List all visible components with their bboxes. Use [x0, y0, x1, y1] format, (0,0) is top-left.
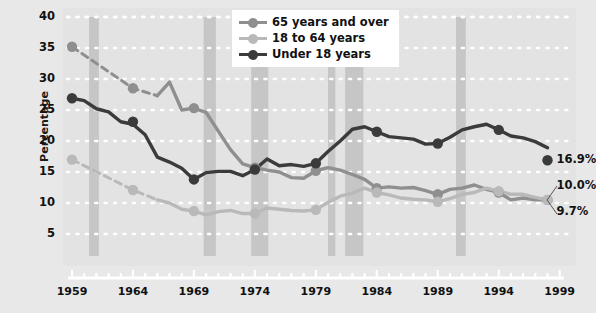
y-tick-label: 20 [27, 133, 55, 147]
end-label-under18: 16.9% [556, 152, 596, 166]
data-point-marker [494, 125, 504, 135]
x-tick-label: 1979 [294, 285, 338, 298]
legend-item-18to64[interactable]: 18 to 64 years [239, 30, 389, 46]
legend-label-over65: 65 years and over [272, 15, 389, 29]
x-tick-label: 1999 [538, 285, 582, 298]
data-point-marker [250, 208, 260, 218]
x-tick-label: 1994 [477, 285, 521, 298]
data-point-marker [189, 103, 199, 113]
data-point-marker [67, 42, 77, 52]
data-point-marker [189, 174, 199, 184]
x-tick-label: 1974 [233, 285, 277, 298]
series-line-1-dashed [72, 160, 157, 200]
data-point-marker [433, 197, 443, 207]
legend-label-18to64: 18 to 64 years [272, 31, 365, 45]
data-point-marker [372, 127, 382, 137]
data-point-marker [250, 164, 260, 174]
data-point-marker [128, 83, 138, 93]
x-tick-label: 1984 [355, 285, 399, 298]
x-tick-label: 1989 [416, 285, 460, 298]
legend-swatch-18to64 [239, 31, 267, 45]
x-tick-label: 1969 [172, 285, 216, 298]
legend-label-under18: Under 18 years [272, 47, 371, 61]
poverty-rate-chart: Percentage 403530252015105 1959196419691… [0, 0, 596, 313]
series-line-0-dashed [72, 47, 157, 96]
data-point-marker [433, 138, 443, 148]
data-point-marker [311, 158, 321, 168]
recession-band [89, 17, 99, 256]
data-point-marker [128, 117, 138, 127]
recession-band [204, 17, 216, 256]
series-lines [72, 47, 547, 215]
y-tick-label: 35 [27, 40, 55, 54]
data-point-marker [189, 206, 199, 216]
legend-item-under18[interactable]: Under 18 years [239, 46, 389, 62]
legend: 65 years and over 18 to 64 years Under 1… [232, 10, 399, 67]
y-tick-label: 15 [27, 164, 55, 178]
data-point-marker [372, 187, 382, 197]
legend-item-over65[interactable]: 65 years and over [239, 14, 389, 30]
y-tick-label: 5 [27, 226, 55, 240]
y-tick-label: 40 [27, 9, 55, 23]
x-tick-label: 1959 [50, 285, 94, 298]
data-point-marker [494, 186, 504, 196]
data-point-marker [128, 185, 138, 195]
y-tick-label: 10 [27, 195, 55, 209]
data-point-marker [67, 154, 77, 164]
y-tick-label: 25 [27, 102, 55, 116]
legend-swatch-over65 [239, 15, 267, 29]
data-point-marker [542, 155, 552, 165]
data-point-marker [311, 205, 321, 215]
legend-swatch-under18 [239, 47, 267, 61]
data-point-marker [67, 93, 77, 103]
label-leader-lines [545, 178, 585, 226]
y-tick-label: 30 [27, 71, 55, 85]
x-tick-label: 1964 [111, 285, 155, 298]
recession-band [456, 17, 466, 256]
x-axis-svg [63, 270, 576, 286]
